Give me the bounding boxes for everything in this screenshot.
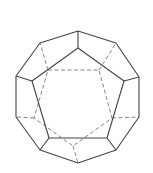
hidden-edge — [112, 117, 139, 118]
hidden-edge — [16, 117, 34, 118]
back-pentagon-face — [34, 70, 112, 146]
visible-edge — [40, 138, 49, 150]
hidden-edge — [99, 43, 116, 70]
hidden-edge — [73, 146, 78, 163]
hidden-edges — [16, 43, 139, 163]
visible-edge — [107, 138, 116, 150]
dodecahedron-diagram — [0, 0, 153, 173]
visible-edge — [124, 77, 139, 81]
hidden-edge — [40, 43, 48, 70]
visible-edge — [16, 76, 32, 81]
